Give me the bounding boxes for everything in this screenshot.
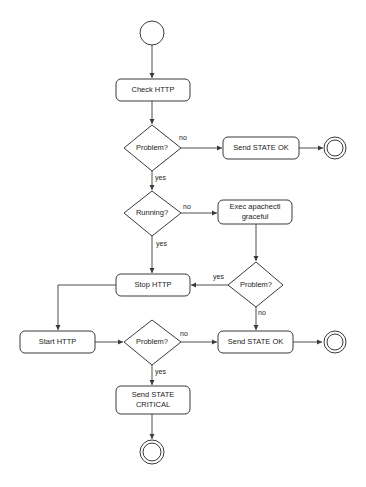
edge-label-no: no	[179, 134, 187, 141]
node-label: Stop HTTP	[134, 280, 171, 289]
node-label-line1: Exec apachectl	[230, 202, 281, 211]
flowchart-canvas: no yes no yes yes no no yes Check HTTP P…	[0, 0, 366, 487]
final-state-1	[324, 137, 346, 159]
node-label-line1: Send STATE	[132, 390, 175, 399]
node-exec-graceful: Exec apachectl graceful	[218, 200, 292, 224]
decision-problem-1: Problem?	[124, 125, 181, 171]
decision-label: Problem?	[240, 280, 272, 289]
decision-running: Running?	[124, 191, 181, 236]
edges	[58, 45, 323, 439]
final-state-2	[324, 331, 346, 353]
edge-label-yes: yes	[155, 368, 166, 376]
edge-label-no: no	[183, 203, 191, 210]
node-send-ok-2: Send STATE OK	[218, 331, 293, 353]
node-label-line2: CRITICAL	[136, 400, 170, 409]
node-label-line2: graceful	[242, 212, 269, 221]
start-node	[140, 21, 164, 45]
decision-problem-2: Problem?	[228, 262, 283, 307]
decision-label: Running?	[136, 208, 168, 217]
edge-label-yes: yes	[155, 174, 166, 182]
decision-label: Problem?	[136, 143, 168, 152]
decision-label: Problem?	[136, 337, 168, 346]
node-send-ok-1: Send STATE OK	[223, 137, 299, 159]
node-start-http: Start HTTP	[20, 331, 95, 353]
edge-label-yes: yes	[156, 240, 167, 248]
edge-label-no: no	[180, 330, 188, 337]
node-check-http: Check HTTP	[116, 79, 190, 101]
node-label: Check HTTP	[132, 85, 175, 94]
node-stop-http: Stop HTTP	[116, 274, 190, 296]
edge-stop-to-start	[58, 285, 116, 330]
node-label: Start HTTP	[39, 337, 77, 346]
decision-problem-3: Problem?	[124, 320, 181, 365]
node-label: Send STATE OK	[228, 337, 284, 346]
edge-label-yes: yes	[213, 273, 224, 281]
edge-label-no: no	[258, 309, 266, 316]
node-label: Send STATE OK	[233, 143, 289, 152]
node-send-critical: Send STATE CRITICAL	[116, 386, 190, 414]
initial-state-circle	[140, 21, 164, 45]
final-state-3	[140, 440, 164, 464]
